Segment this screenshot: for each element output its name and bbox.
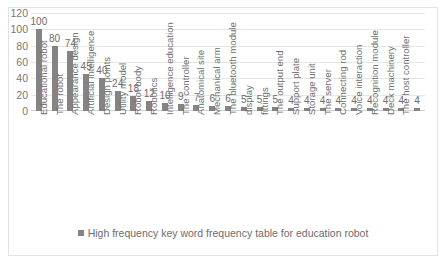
category-label-slot: Support plate: [283, 113, 299, 229]
category-label-slot: The host controller: [393, 113, 409, 229]
category-label: Deck machinery: [386, 46, 396, 115]
category-label-slot: Connecting rod: [330, 113, 346, 229]
category-label-slot: Educational robot: [31, 113, 47, 229]
category-label: The bluetooth module: [228, 22, 238, 115]
legend-label: High frequency key word frequency table …: [88, 228, 369, 239]
category-label: Appearance design: [70, 32, 80, 115]
category-label-slot: [409, 113, 425, 229]
bar-value-label: 100: [31, 17, 48, 27]
category-label: Educational robot: [39, 40, 49, 115]
category-label: The output end: [275, 50, 285, 115]
y-axis-tick-label: 40: [16, 73, 28, 84]
bar[interactable]: [414, 108, 420, 111]
category-label: The server: [323, 69, 333, 115]
category-label: The host controller: [401, 36, 411, 115]
category-label: Design points: [102, 57, 112, 115]
bar-slot: 4: [409, 13, 425, 111]
category-label-slot: Voice interaction: [346, 113, 362, 229]
chart-legend: High frequency key word frequency table …: [0, 228, 446, 239]
category-label: Utility model: [118, 63, 128, 115]
category-label: The controller: [181, 56, 191, 115]
bar-value-label: 4: [414, 96, 420, 106]
category-label-slot: Recognition module: [362, 113, 378, 229]
category-label: display: [244, 85, 254, 115]
category-label: Intelligence education: [165, 22, 175, 115]
category-label-slot: fittings: [252, 113, 268, 229]
category-labels: Educational robotThe robotAppearance des…: [31, 113, 425, 229]
category-label: Robotics: [149, 78, 159, 115]
category-label: Storage unit: [307, 63, 317, 115]
category-label-slot: display: [236, 113, 252, 229]
category-label: Artificial intelligence: [86, 31, 96, 115]
category-label-slot: Storage unit: [299, 113, 315, 229]
y-axis-tick-label: 0: [22, 106, 28, 117]
category-label-slot: Appearance design: [63, 113, 79, 229]
category-label-slot: The output end: [267, 113, 283, 229]
y-axis-tick-label: 20: [16, 89, 28, 100]
category-label-slot: Anatomical site: [189, 113, 205, 229]
category-label-slot: Utility model: [110, 113, 126, 229]
category-label-slot: Design points: [94, 113, 110, 229]
category-label: Recognition module: [370, 30, 380, 115]
category-label-slot: The controller: [173, 113, 189, 229]
category-label: Mechanical arm: [212, 47, 222, 115]
category-label-slot: The bluetooth module: [220, 113, 236, 229]
category-label-slot: Robotics: [141, 113, 157, 229]
bar-chart-container: 120100806040200 100807445402418121097665…: [0, 0, 446, 271]
legend-swatch-icon: [78, 230, 84, 236]
category-label: Voice interaction: [354, 45, 364, 115]
category-label: The robot: [55, 74, 65, 115]
category-label: Connecting rod: [338, 50, 348, 115]
category-label-slot: Deck machinery: [378, 113, 394, 229]
category-label-slot: The server: [315, 113, 331, 229]
category-label: Anatomical site: [196, 50, 206, 115]
category-label: Support plate: [291, 58, 301, 115]
y-axis-tick-label: 80: [16, 40, 28, 51]
category-label-slot: The robot: [47, 113, 63, 229]
category-label-slot: Robot body: [126, 113, 142, 229]
category-label-slot: Artificial intelligence: [78, 113, 94, 229]
bar-value-label: 80: [49, 34, 60, 44]
y-axis-tick-label: 60: [16, 57, 28, 68]
category-label: fittings: [260, 87, 270, 115]
y-axis: 120100806040200: [0, 13, 28, 112]
category-label: Robot body: [133, 66, 143, 115]
category-label-slot: Intelligence education: [157, 113, 173, 229]
y-axis-tick-label: 120: [10, 8, 28, 19]
category-label-slot: Mechanical arm: [204, 113, 220, 229]
y-axis-tick-label: 100: [10, 24, 28, 35]
